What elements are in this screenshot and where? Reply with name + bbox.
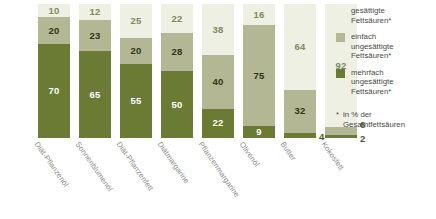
- bar-segment-monounsaturated: 20: [120, 38, 152, 65]
- legend-item-monounsaturated: einfach ungesättigte Fettsäuren*: [336, 32, 436, 61]
- footnote-text: in % der Gesamtfettsäuren: [343, 110, 405, 129]
- x-axis-label-1: Diät-Pflanzenöl: [33, 140, 71, 189]
- legend-label-saturated: gesättigte Fettsäuren*: [351, 6, 391, 25]
- x-axis-labels: Diät-PflanzenölSonnenblumenölDiät-Pflanz…: [0, 138, 436, 208]
- plot-area: 1020701223652520552228503840221675964324…: [38, 4, 306, 138]
- bar-segment-monounsaturated: 32: [284, 90, 316, 133]
- bar-segment-polyunsaturated: 55: [120, 64, 152, 138]
- bar-4[interactable]: 222850: [161, 4, 193, 138]
- footnote-line2: Gesamtfettsäuren: [343, 120, 405, 129]
- bar-segment-polyunsaturated: 22: [202, 109, 234, 138]
- stacked-bar-chart: 1020701223652520552228503840221675964324…: [0, 0, 436, 219]
- legend-swatch-saturated-icon: [336, 7, 345, 16]
- bar-2[interactable]: 122365: [79, 4, 111, 138]
- legend-item-saturated: gesättigte Fettsäuren*: [336, 6, 436, 25]
- legend-item-polyunsaturated: mehrfach ungesättigte Fettsäuren*: [336, 68, 436, 97]
- x-axis-label-2: Sonnenblumenöl: [74, 140, 115, 193]
- bar-segment-value: 20: [131, 46, 142, 56]
- x-axis-label-7: Butter: [279, 140, 298, 162]
- bar-segment-polyunsaturated: 50: [161, 71, 193, 138]
- bar-segment-value: 55: [131, 96, 142, 106]
- bar-segment-polyunsaturated: 9: [243, 126, 275, 138]
- footnote-line1: in % der: [343, 110, 372, 119]
- bar-segment-saturated: 12: [79, 4, 111, 20]
- footnote-marker: *: [336, 110, 339, 129]
- bar-5[interactable]: 384022: [202, 4, 234, 138]
- bar-segment-monounsaturated: 75: [243, 25, 275, 126]
- legend-swatch-polyunsaturated-icon: [336, 69, 345, 78]
- bar-segment-value: 38: [213, 25, 224, 35]
- bar-segment-value: 25: [131, 16, 142, 26]
- bar-segment-value: 75: [254, 71, 265, 81]
- legend-label-poly-line3: Fettsäuren*: [351, 87, 391, 96]
- bar-segment-saturated: 25: [120, 4, 152, 38]
- legend-label-mono-line3: Fettsäuren*: [351, 51, 391, 60]
- legend-label-mono-line1: einfach: [351, 32, 376, 41]
- bar-segment-polyunsaturated: 65: [79, 51, 111, 138]
- x-axis-label-3: Diät-Pflanzenfett: [115, 140, 156, 193]
- bar-segment-monounsaturated: 40: [202, 55, 234, 109]
- bar-segment-monounsaturated: 23: [79, 20, 111, 51]
- bar-segment-value: 22: [172, 14, 183, 24]
- bar-segment-saturated: 64: [284, 4, 316, 90]
- bar-segment-value: 10: [49, 6, 60, 16]
- bar-segment-value: 50: [172, 100, 183, 110]
- bar-segment-monounsaturated: 28: [161, 33, 193, 71]
- bar-segment-value: 12: [90, 7, 101, 17]
- legend-label-mono-line2: ungesättigte: [351, 42, 393, 51]
- legend-label-poly-line2: ungesättigte: [351, 77, 393, 86]
- legend-label-poly-line1: mehrfach: [351, 68, 384, 77]
- bar-6[interactable]: 16759: [243, 4, 275, 138]
- bar-7[interactable]: 64324: [284, 4, 316, 138]
- bar-segment-saturated: 38: [202, 4, 234, 55]
- bar-segment-value: 16: [254, 10, 265, 20]
- bar-segment-value: 28: [172, 47, 183, 57]
- bar-segment-value: 9: [256, 127, 261, 137]
- bar-segment-value: 64: [295, 42, 306, 52]
- bar-segment-value: 20: [49, 26, 60, 36]
- bar-segment-value: 22: [213, 118, 224, 128]
- bar-3[interactable]: 252055: [120, 4, 152, 138]
- legend-label-saturated-line2: Fettsäuren*: [351, 16, 391, 25]
- legend-label-saturated-line1: gesättigte: [351, 6, 385, 15]
- x-axis-label-4: Diätmargarine: [156, 140, 191, 185]
- legend-label-polyunsaturated: mehrfach ungesättigte Fettsäuren*: [351, 68, 393, 97]
- x-axis-label-6: Olivenöl: [238, 140, 262, 168]
- legend-swatch-monounsaturated-icon: [336, 33, 345, 42]
- bar-segment-saturated: 22: [161, 4, 193, 33]
- chart-footnote: * in % der Gesamtfettsäuren: [336, 110, 436, 129]
- bar-segment-value: 23: [90, 31, 101, 41]
- x-axis-label-5: Pflanzenmargarine: [197, 140, 242, 199]
- bar-segment-saturated: 10: [38, 4, 70, 17]
- bar-segment-polyunsaturated: 70: [38, 44, 70, 138]
- x-axis-label-8: Kokosfett: [320, 140, 346, 172]
- bar-segment-monounsaturated: 20: [38, 17, 70, 44]
- legend-label-monounsaturated: einfach ungesättigte Fettsäuren*: [351, 32, 393, 61]
- bar-segment-value: 32: [295, 106, 306, 116]
- bar-segment-value: 65: [90, 90, 101, 100]
- bar-segment-value: 70: [49, 86, 60, 96]
- bar-segment-saturated: 16: [243, 4, 275, 25]
- chart-legend: gesättigte Fettsäuren* einfach ungesätti…: [336, 6, 436, 103]
- bar-1[interactable]: 102070: [38, 4, 70, 138]
- bar-segment-value: 40: [213, 77, 224, 87]
